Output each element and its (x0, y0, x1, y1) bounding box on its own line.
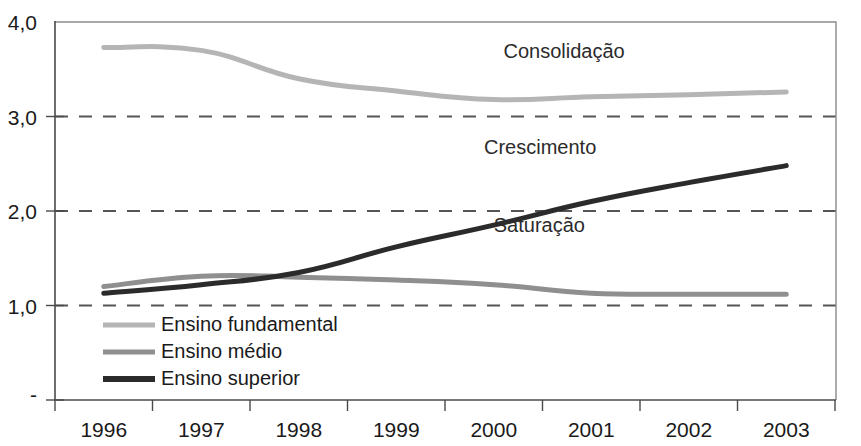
annotation-consolidao: Consolidação (504, 40, 625, 62)
y-tick-label: 1,0 (8, 295, 37, 318)
line-chart: 4,03,02,01,0- 19961997199819992000200120… (0, 0, 861, 446)
x-tick-label-2000: 2000 (470, 418, 517, 441)
y-tick-label: 3,0 (8, 106, 37, 129)
legend: Ensino fundamentalEnsino médioEnsino sup… (103, 313, 338, 389)
x-tick-label-1999: 1999 (373, 418, 420, 441)
chart-figure: 4,03,02,01,0- 19961997199819992000200120… (0, 0, 861, 446)
y-tick-label: - (30, 383, 37, 406)
annotation-crescimento: Crescimento (484, 136, 596, 158)
x-tick-label-1996: 1996 (80, 418, 127, 441)
y-axis: 4,03,02,01,0- (8, 11, 64, 406)
series-line-ensino-fundamental (104, 47, 787, 100)
y-tick-label: 2,0 (8, 200, 37, 223)
x-axis: 19961997199819992000200120022003 (54, 400, 836, 441)
x-tick-label-1998: 1998 (275, 418, 322, 441)
x-tick-label-2002: 2002 (665, 418, 712, 441)
data-series (104, 47, 787, 295)
legend-label-ensino-médio: Ensino médio (161, 340, 282, 362)
annotation-saturao: Saturação (494, 214, 585, 236)
x-tick-label-2003: 2003 (763, 418, 810, 441)
legend-label-ensino-fundamental: Ensino fundamental (161, 313, 338, 335)
y-tick-label: 4,0 (8, 11, 37, 34)
x-tick-label-1997: 1997 (178, 418, 225, 441)
x-tick-label-2001: 2001 (568, 418, 615, 441)
legend-label-ensino-superior: Ensino superior (161, 367, 300, 389)
phase-annotations: ConsolidaçãoCrescimentoSaturação (484, 40, 625, 236)
